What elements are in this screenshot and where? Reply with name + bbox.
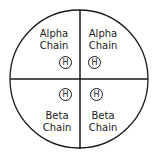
- alpha-chain-label-top-left: Alpha Chain: [34, 28, 74, 52]
- heme-icon: H: [59, 56, 72, 69]
- beta-chain-label-bottom-left: Beta Chain: [37, 110, 77, 134]
- label-line1: Beta: [83, 110, 123, 122]
- quadrant-circle: [0, 0, 159, 161]
- label-line2: Chain: [37, 122, 77, 134]
- label-line2: Chain: [83, 40, 123, 52]
- heme-icon: H: [90, 88, 103, 101]
- beta-chain-label-bottom-right: Beta Chain: [83, 110, 123, 134]
- heme-icon: H: [59, 88, 72, 101]
- label-line2: Chain: [34, 40, 74, 52]
- label-line1: Beta: [37, 110, 77, 122]
- label-line2: Chain: [83, 122, 123, 134]
- heme-icon: H: [88, 56, 101, 69]
- alpha-chain-label-top-right: Alpha Chain: [83, 28, 123, 52]
- label-line1: Alpha: [34, 28, 74, 40]
- label-line1: Alpha: [83, 28, 123, 40]
